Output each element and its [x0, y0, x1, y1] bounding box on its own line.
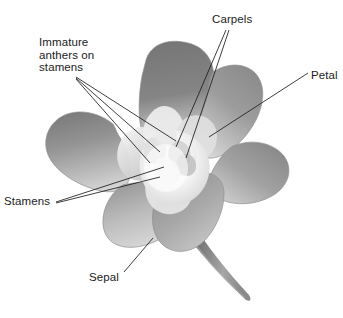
label-carpels: Carpels	[212, 13, 252, 26]
label-immature-anthers-on-stamens: Immature anthers on stamens	[39, 36, 94, 74]
label-petal: Petal	[311, 69, 338, 82]
flower-anatomy-diagram: Carpels Immature anthers on stamens Peta…	[0, 0, 343, 318]
center-highlight	[144, 144, 188, 192]
label-stamens: Stamens	[4, 195, 50, 208]
label-sepal: Sepal	[89, 271, 119, 284]
